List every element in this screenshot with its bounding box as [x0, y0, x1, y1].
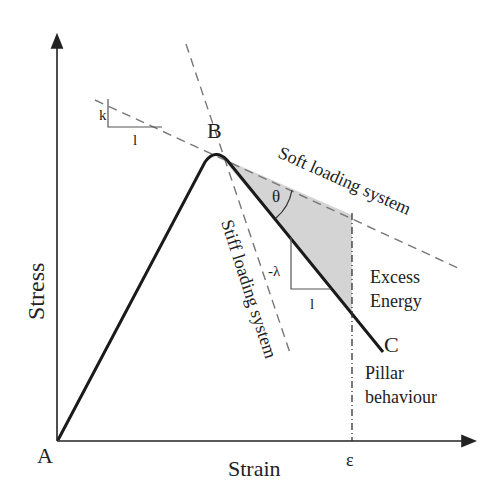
lambda-label: -λ [268, 263, 281, 279]
point-c-label: C [384, 332, 399, 357]
epsilon-label: ε [346, 450, 354, 470]
k-label: k [99, 107, 107, 123]
point-a-label: A [37, 443, 53, 468]
x-axis-label: Strain [228, 456, 281, 481]
soft-loading-line [95, 100, 458, 268]
excess-energy-label-1: Excess [370, 267, 420, 287]
pillar-behaviour-label-2: behaviour [365, 387, 437, 407]
pillar-behaviour-label-1: Pillar [365, 363, 404, 383]
excess-energy-label-2: Energy [370, 291, 422, 311]
theta-label: θ [272, 187, 280, 206]
k-run-label: l [133, 132, 137, 148]
point-b-label: B [207, 118, 222, 143]
k-slope-triangle [108, 99, 162, 127]
stress-strain-diagram: Stress Strain A B C k l -λ l θ Soft load… [0, 0, 491, 501]
pillar-curve [58, 154, 383, 440]
stiff-loading-label: Stiff loading system [217, 217, 281, 361]
lambda-run-label: l [310, 296, 314, 312]
y-axis-label: Stress [23, 263, 49, 320]
